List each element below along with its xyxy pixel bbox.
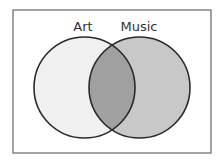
music-set-label: Music bbox=[121, 19, 158, 34]
venn-diagram: Art Music bbox=[0, 0, 219, 160]
art-set-label: Art bbox=[73, 19, 92, 34]
